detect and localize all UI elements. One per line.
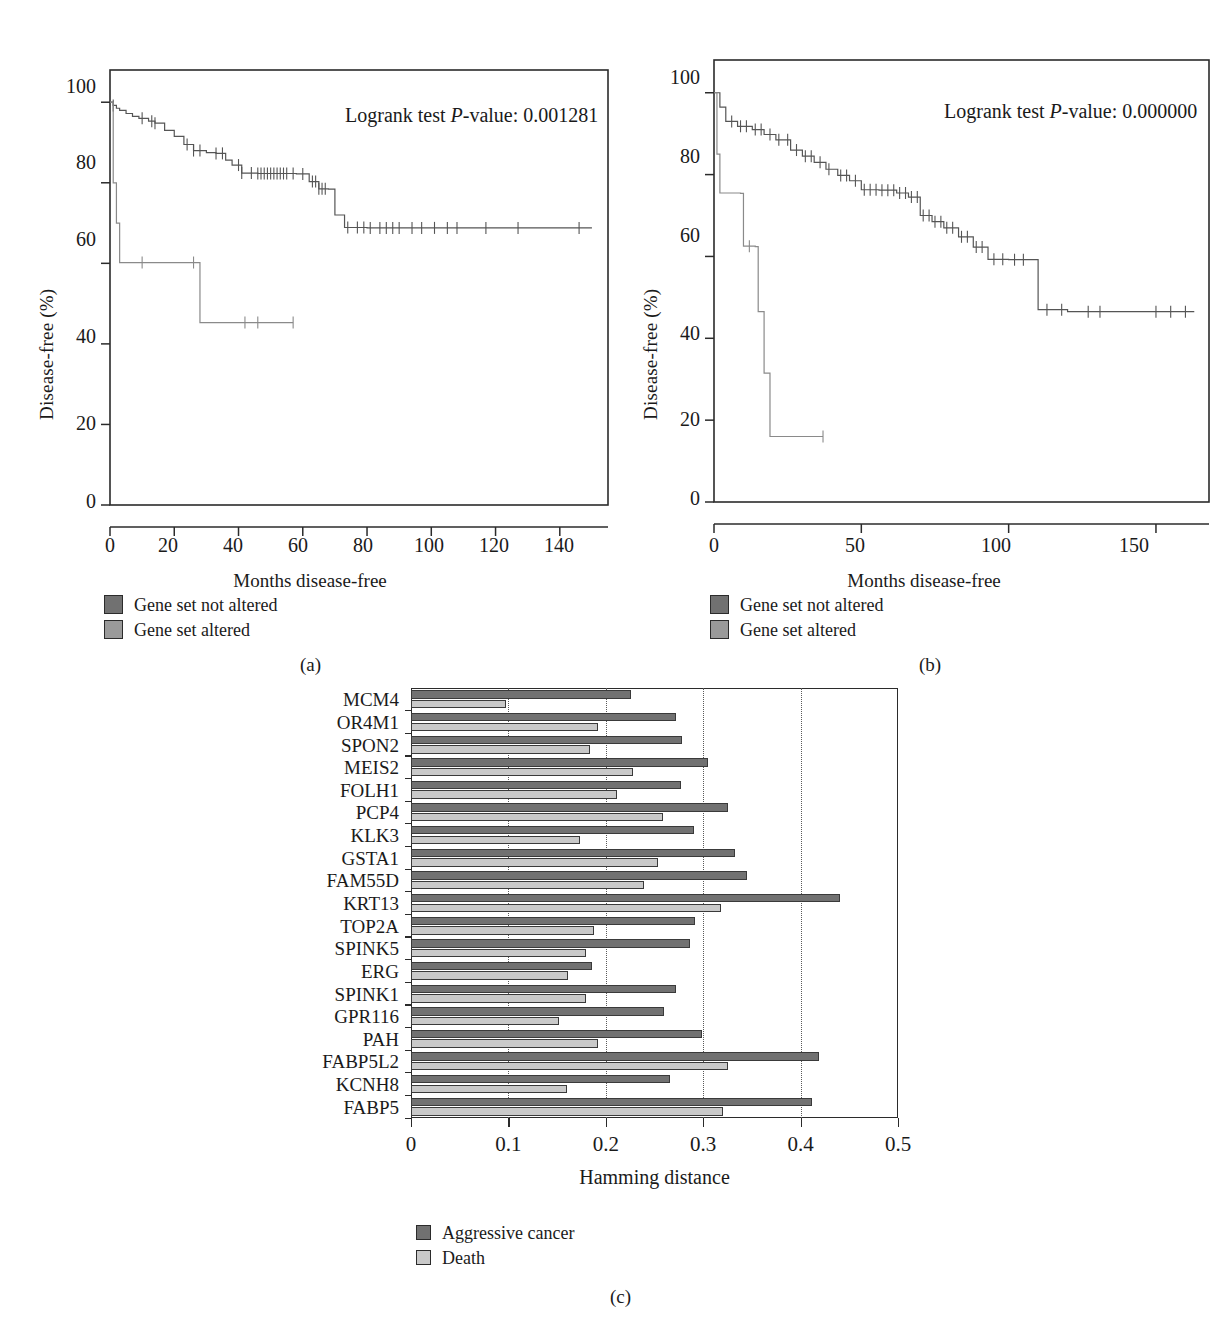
bar-aggressive-cancer <box>411 1007 664 1015</box>
bar-death <box>411 1017 559 1025</box>
gene-label: TOP2A <box>340 917 399 936</box>
legend-item-altered: Gene set altered <box>710 619 883 640</box>
bar-category-tick <box>405 710 411 711</box>
bar-death <box>411 723 598 731</box>
km-b-plot: Logrank test P-value: 0.000000 <box>614 0 1229 560</box>
legend-swatch-icon <box>416 1250 431 1265</box>
logrank-annotation: Logrank test P-value: 0.000000 <box>944 100 1197 123</box>
bar-legend: Aggressive cancer Death <box>416 1222 574 1272</box>
bar-death <box>411 1039 598 1047</box>
bar-aggressive-cancer <box>411 803 728 811</box>
legend-swatch-icon <box>104 620 123 639</box>
bar-category-tick <box>405 1050 411 1051</box>
bar-category-tick <box>405 891 411 892</box>
gene-label: KLK3 <box>350 826 399 845</box>
bar-x-tick-mark <box>898 1118 899 1127</box>
gene-label: FABP5L2 <box>322 1052 399 1071</box>
survival-curve <box>714 93 823 437</box>
gene-label: FABP5 <box>343 1098 399 1117</box>
gene-label: MCM4 <box>343 690 399 709</box>
bar-aggressive-cancer <box>411 736 682 744</box>
legend-label: Gene set not altered <box>740 596 883 614</box>
bar-aggressive-cancer <box>411 826 694 834</box>
gene-label: KCNH8 <box>336 1075 399 1094</box>
bar-aggressive-cancer <box>411 917 695 925</box>
bar-death <box>411 971 568 979</box>
bar-category-tick <box>405 914 411 915</box>
bar-aggressive-cancer <box>411 939 690 947</box>
gene-label: GPR116 <box>334 1007 399 1026</box>
hamming-distance-panel-c: MCM4OR4M1SPON2MEIS2FOLH1PCP4KLK3GSTA1FAM… <box>0 676 1229 1330</box>
bar-x-tick-mark <box>411 1118 412 1127</box>
km-a-plot: Logrank test P-value: 0.001281 <box>0 0 615 560</box>
bar-aggressive-cancer <box>411 1075 670 1083</box>
bar-death <box>411 700 506 708</box>
bar-category-tick <box>405 982 411 983</box>
bar-death <box>411 813 663 821</box>
gene-label: SPON2 <box>341 736 399 755</box>
panel-label-a: (a) <box>300 654 321 676</box>
page-footer-text-fragment <box>600 1318 1200 1330</box>
plot-frame <box>714 60 1209 502</box>
legend-item-altered: Gene set altered <box>104 619 277 640</box>
gene-label: GSTA1 <box>341 849 399 868</box>
bar-category-tick <box>405 1004 411 1005</box>
bar-aggressive-cancer <box>411 1030 702 1038</box>
bar-category-tick <box>405 823 411 824</box>
km-a-x-axis-label: Months disease-free <box>180 570 440 592</box>
gene-label: KRT13 <box>343 894 399 913</box>
bar-x-axis-label: Hamming distance <box>505 1166 805 1189</box>
legend-label: Gene set altered <box>134 621 250 639</box>
bar-aggressive-cancer <box>411 713 676 721</box>
legend-item-death: Death <box>416 1247 574 1268</box>
legend-swatch-icon <box>416 1225 431 1240</box>
bar-death <box>411 1062 728 1070</box>
legend-swatch-icon <box>104 595 123 614</box>
survival-curve <box>714 93 1194 312</box>
legend-label: Death <box>442 1249 485 1267</box>
bar-aggressive-cancer <box>411 1098 812 1106</box>
bar-death <box>411 949 586 957</box>
bar-category-tick <box>405 755 411 756</box>
legend-swatch-icon <box>710 620 729 639</box>
bar-category-tick <box>405 1027 411 1028</box>
legend-swatch-icon <box>710 595 729 614</box>
bar-category-tick <box>405 846 411 847</box>
legend-item-aggressive-cancer: Aggressive cancer <box>416 1222 574 1243</box>
kaplan-meier-panel-b: Disease-free (%) 100 80 60 40 20 0 0 50 … <box>614 0 1229 680</box>
bar-death <box>411 836 580 844</box>
bar-aggressive-cancer <box>411 758 708 766</box>
bar-death <box>411 926 594 934</box>
bar-category-tick <box>405 869 411 870</box>
bar-x-tick-label: 0.1 <box>478 1132 538 1157</box>
panel-label-c: (c) <box>610 1286 631 1308</box>
bar-death <box>411 790 617 798</box>
bar-x-tick-label: 0.3 <box>673 1132 733 1157</box>
km-b-legend: Gene set not altered Gene set altered <box>710 594 883 644</box>
gene-label: FOLH1 <box>340 781 399 800</box>
gene-label: OR4M1 <box>337 713 399 732</box>
bar-aggressive-cancer <box>411 690 631 698</box>
bar-x-tick-mark <box>703 1118 704 1127</box>
bar-category-tick <box>405 959 411 960</box>
kaplan-meier-panel-a: Disease-free (%) 100 80 60 40 20 0 0 20 … <box>0 0 615 680</box>
legend-item-not-altered: Gene set not altered <box>710 594 883 615</box>
bar-category-tick <box>405 801 411 802</box>
bar-death <box>411 1085 567 1093</box>
km-a-legend: Gene set not altered Gene set altered <box>104 594 277 644</box>
bar-category-tick <box>405 1095 411 1096</box>
bar-aggressive-cancer <box>411 849 735 857</box>
legend-label: Aggressive cancer <box>442 1224 574 1242</box>
gene-label: FAM55D <box>327 871 400 890</box>
survival-curve <box>110 102 293 322</box>
bar-death <box>411 904 721 912</box>
bar-category-tick <box>405 778 411 779</box>
legend-label: Gene set not altered <box>134 596 277 614</box>
gene-label: MEIS2 <box>344 758 399 777</box>
bar-x-tick-mark <box>508 1118 509 1127</box>
bar-x-tick-label: 0.2 <box>576 1132 636 1157</box>
logrank-annotation: Logrank test P-value: 0.001281 <box>345 104 598 127</box>
bar-aggressive-cancer <box>411 871 747 879</box>
bar-aggressive-cancer <box>411 962 592 970</box>
legend-label: Gene set altered <box>740 621 856 639</box>
